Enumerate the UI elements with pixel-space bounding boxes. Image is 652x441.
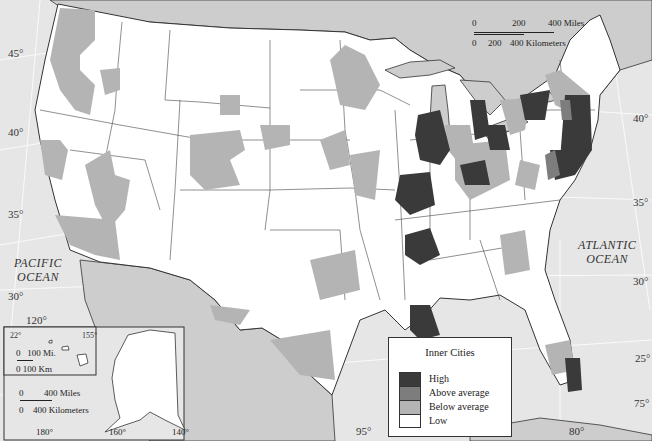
alaska-scale-km-0: 0 [19,405,24,415]
lon-label-95: 95° [356,425,371,437]
choropleth-map [0,0,652,441]
hawaii-lat-label: 22° [10,331,21,340]
hawaii-scale-km: 0 100 Km [16,364,52,374]
lat-label-east-35: 35° [633,196,648,208]
atlantic-ocean-text: ATLANTIC OCEAN [578,238,636,266]
alaska-scale-miles: 400 Miles [44,388,80,398]
pacific-ocean-label: PACIFIC OCEAN [14,256,62,284]
pacific-ocean-text: PACIFIC OCEAN [14,256,62,284]
scale-bar: 0 200 400 Miles 0 200 400 Kilometers [470,14,610,54]
lon-label-80: 80° [569,425,584,437]
legend-label-high: High [429,373,449,384]
scale-line [474,32,554,33]
scale-km-0: 0 [472,38,477,48]
scale-km-200: 200 [488,38,502,48]
alaska-scale-miles-0: 0 [19,388,24,398]
alaska-lon-140: 140° [172,427,189,437]
legend-swatch-high [399,372,421,386]
lat-label-west-35: 35° [8,208,23,220]
legend-swatch-low [399,414,421,428]
hawaii-scale-miles: 0 100 Mi. [16,348,56,358]
legend-title: Inner Cities [389,347,511,358]
scale-miles-400: 400 Miles [548,18,584,28]
alaska-scale-line [20,400,52,401]
legend-swatch-above-average [399,386,421,400]
legend-label-low: Low [429,415,447,426]
scale-miles-200: 200 [512,18,526,28]
lon-label-75: 75° [634,397,649,409]
hawaii-lon-label: 155° [82,331,97,340]
scale-km-400: 400 Kilometers [510,38,566,48]
alaska-lon-180: 180° [36,427,53,437]
scale-line-km [474,34,524,35]
legend-label-below-average: Below average [429,401,489,412]
legend-label-above-average: Above average [429,387,489,398]
legend: Inner Cities High Above average Below av… [388,337,512,437]
alaska-scale-km: 400 Kilometers [33,405,89,415]
lat-label-east-30: 30° [633,275,648,287]
scale-miles-0: 0 [472,18,477,28]
lat-label-west-40: 40° [8,126,23,138]
alaska-lon-160: 160° [109,427,126,437]
lat-label-west-45: 45° [8,47,23,59]
lat-label-east-40: 40° [633,112,648,124]
lat-label-east-25: 25° [635,352,650,364]
legend-swatch-below-average [399,400,421,414]
lon-label-120: 120° [26,314,47,326]
hawaii-scale-line [17,360,33,361]
lat-label-west-30: 30° [8,290,23,302]
atlantic-ocean-label: ATLANTIC OCEAN [578,238,636,266]
